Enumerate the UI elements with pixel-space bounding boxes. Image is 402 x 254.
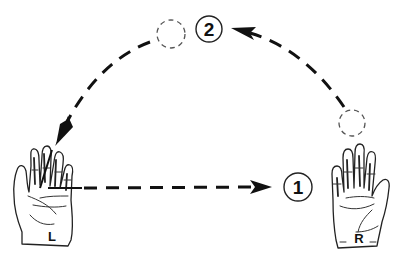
position-2-label: 2 (204, 19, 215, 40)
position-1-marker: 1 (284, 173, 312, 201)
arc-up-dashes (250, 33, 344, 107)
juggling-diagram: 2 1 L R (0, 0, 402, 254)
ghost-ball-right (339, 110, 365, 136)
ghost-ball-top (157, 20, 185, 48)
diagram-canvas: 2 1 L R (0, 0, 402, 254)
position-1-label: 1 (293, 177, 304, 198)
position-2-marker: 2 (196, 16, 222, 42)
right-hand-label: R (354, 231, 364, 246)
arc-down-dashes (64, 42, 150, 128)
left-hand-label: L (48, 229, 56, 244)
horizontal-arrowhead (250, 180, 272, 194)
left-hand: L (14, 146, 82, 246)
horizontal-pass-path (84, 180, 272, 194)
arc-down-path (55, 42, 150, 146)
right-hand: R (332, 144, 389, 248)
horizontal-dashes (84, 187, 258, 188)
arc-down-arrowhead-fill (55, 116, 73, 146)
arc-up-path (231, 27, 344, 107)
